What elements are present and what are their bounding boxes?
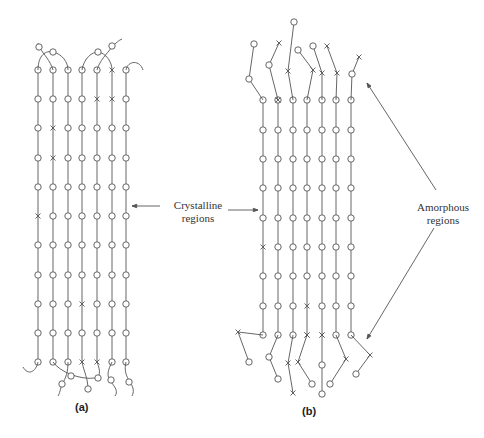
chain-unit-circle (260, 215, 266, 221)
chain-unit-circle (94, 330, 100, 336)
chain-unit-circle (79, 96, 85, 102)
chain-unit-circle (109, 301, 115, 307)
chain-unit-circle (85, 386, 91, 392)
chain-unit-circle (109, 330, 115, 336)
chain-unit-circle (290, 303, 296, 309)
amorphous-regions-label: Amorphous regions (410, 201, 476, 227)
tail-bot-b0 (238, 332, 263, 362)
chain-unit-circle (275, 127, 281, 133)
chain-unit-circle (275, 273, 281, 279)
chain-unit-circle (275, 185, 281, 191)
chain-unit-circle (50, 272, 56, 278)
chain-unit-circle (123, 272, 129, 278)
chain-unit-circle (349, 71, 355, 77)
chain-unit-circle (94, 125, 100, 131)
chain-unit-circle (319, 127, 325, 133)
chain-unit-circle (348, 273, 354, 279)
chain-unit-circle (68, 373, 74, 379)
chain-unit-circle (65, 301, 71, 307)
crystalline-regions-label: Crystalline regions (168, 199, 228, 225)
chain-unit-circle (50, 242, 56, 248)
chain-unit-circle (79, 330, 85, 336)
chain-unit-circle (348, 244, 354, 250)
chain-unit-circle (319, 391, 325, 397)
chain-unit-circle (327, 381, 333, 387)
chain-unit-circle (295, 47, 301, 53)
chain-unit-circle (109, 155, 115, 161)
chain-unit-circle (79, 155, 85, 161)
chain-unit-circle (94, 301, 100, 307)
chain-unit-circle (251, 41, 257, 47)
chain-unit-circle (290, 127, 296, 133)
chain-unit-circle (319, 273, 325, 279)
arrow-crystalline-to-a-head (132, 204, 137, 207)
chain-unit-circle (94, 242, 100, 248)
chain-unit-circle (333, 156, 339, 162)
chain-unit-circle (123, 301, 129, 307)
chain-unit-circle (50, 330, 56, 336)
chain-unit-circle (94, 184, 100, 190)
arrow-amorphous-top-head (367, 83, 371, 88)
chain-unit-circle (260, 185, 266, 191)
chain-unit-circle (109, 242, 115, 248)
tail-bot-b5 (330, 335, 346, 384)
chain-unit-circle (35, 184, 41, 190)
chain-unit-circle (65, 330, 71, 336)
chain-unit-circle (35, 301, 41, 307)
chain-unit-circle (319, 185, 325, 191)
chain-unit-circle (109, 125, 115, 131)
caption-b: (b) (302, 405, 316, 417)
chain-unit-circle (94, 272, 100, 278)
chain-unit-circle (65, 125, 71, 131)
chain-unit-circle (59, 381, 65, 387)
chain-unit-circle (304, 273, 310, 279)
chain-unit-circle (333, 273, 339, 279)
chain-unit-circle (79, 125, 85, 131)
chain-unit-circle (126, 379, 132, 385)
chain-unit-circle (333, 215, 339, 221)
chain-unit-circle (290, 244, 296, 250)
chain-unit-circle (65, 184, 71, 190)
chain-unit-circle (319, 215, 325, 221)
chain-unit-circle (109, 184, 115, 190)
chain-unit-circle (123, 155, 129, 161)
chain-unit-circle (123, 96, 129, 102)
chain-unit-circle (35, 330, 41, 336)
chain-unit-circle (109, 43, 115, 49)
chain-unit-circle (50, 213, 56, 219)
chain-unit-circle (291, 19, 297, 25)
chain-unit-circle (65, 155, 71, 161)
chain-unit-circle (95, 49, 101, 55)
chain-unit-circle (79, 184, 85, 190)
chain-unit-circle (260, 127, 266, 133)
chain-unit-circle (266, 62, 272, 68)
chain-unit-circle (123, 330, 129, 336)
tail-top-b0 (249, 44, 263, 100)
amorphous-label-line1: Amorphous (410, 201, 476, 214)
chain-unit-circle (290, 156, 296, 162)
polymer-crystallinity-diagram: Crystalline regions Amorphous regions (a… (0, 0, 484, 438)
chain-unit-circle (260, 156, 266, 162)
chain-unit-circle (309, 381, 315, 387)
chain-unit-circle (36, 44, 42, 50)
chain-unit-circle (275, 376, 281, 382)
chain-unit-circle (290, 215, 296, 221)
crystalline-label-line1: Crystalline (168, 199, 228, 212)
caption-a: (a) (75, 401, 88, 413)
chain-unit-circle (35, 125, 41, 131)
chain-unit-circle (79, 272, 85, 278)
chain-unit-circle (35, 272, 41, 278)
fold-bot-a3 (58, 362, 68, 396)
chain-unit-circle (310, 43, 316, 49)
chain-unit-circle (123, 125, 129, 131)
chain-unit-circle (348, 185, 354, 191)
chain-unit-circle (94, 155, 100, 161)
chain-unit-circle (275, 215, 281, 221)
chain-unit-circle (260, 303, 266, 309)
chain-unit-circle (108, 377, 114, 383)
chain-unit-circle (304, 185, 310, 191)
chain-unit-circle (246, 359, 252, 365)
chain-unit-circle (79, 213, 85, 219)
chain-unit-circle (65, 96, 71, 102)
chain-unit-circle (290, 185, 296, 191)
